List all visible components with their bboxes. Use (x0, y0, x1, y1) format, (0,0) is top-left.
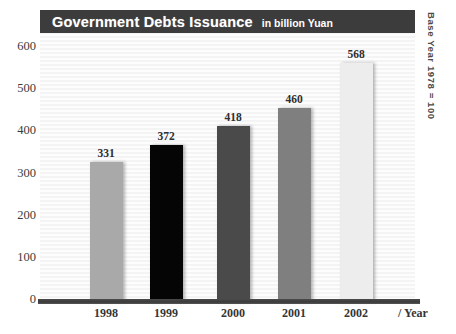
bar-group[interactable]: 460 (278, 108, 311, 302)
bars-layer: 331372418460568 (0, 0, 456, 334)
bar[interactable] (150, 145, 183, 302)
x-tick-label: 2001 (282, 306, 306, 321)
bar-group[interactable]: 568 (340, 63, 373, 303)
bar-value-label: 331 (97, 147, 114, 159)
x-axis-label: / Year (398, 306, 428, 321)
bar[interactable] (90, 162, 123, 302)
bar[interactable] (217, 126, 250, 302)
bar-group[interactable]: 418 (217, 126, 250, 302)
bar[interactable] (278, 108, 311, 302)
bar-value-label: 568 (347, 48, 364, 60)
bar-group[interactable]: 372 (150, 145, 183, 302)
bar-value-label: 372 (157, 130, 174, 142)
x-tick-label: 1999 (154, 306, 178, 321)
x-tick-label: 1998 (94, 306, 118, 321)
bar[interactable] (340, 63, 373, 303)
bar-group[interactable]: 331 (90, 162, 123, 302)
bar-value-label: 460 (285, 93, 302, 105)
bar-value-label: 418 (224, 111, 241, 123)
chart-figure: Government Debts Issuance in billion Yua… (0, 0, 456, 334)
x-tick-label: 2002 (344, 306, 368, 321)
x-axis-line (38, 299, 420, 304)
x-tick-label: 2000 (221, 306, 245, 321)
